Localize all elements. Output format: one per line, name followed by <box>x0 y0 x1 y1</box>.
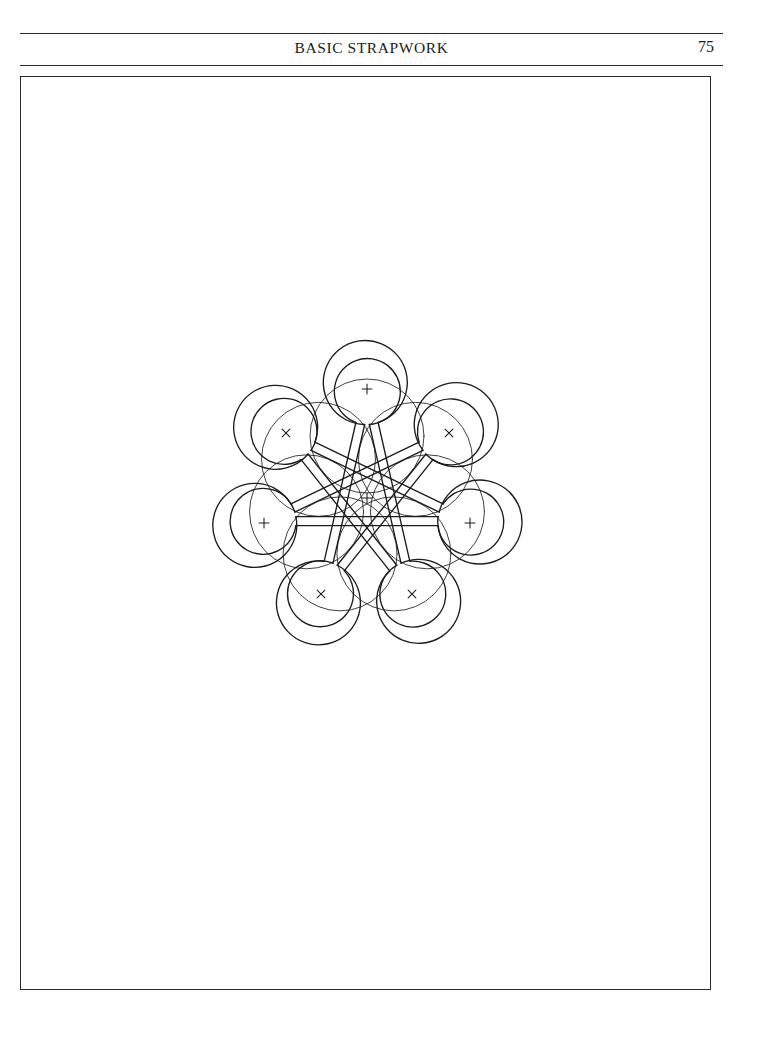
book-page: BASIC STRAPWORK 75 <box>0 0 763 1043</box>
strap-loop-inner <box>438 489 504 555</box>
centre-mark-cross <box>445 429 453 437</box>
strap-line <box>369 424 401 563</box>
strap-line <box>333 424 365 563</box>
strap-line <box>291 442 419 504</box>
centre-mark-cross <box>282 429 290 437</box>
page-number: 75 <box>698 38 714 56</box>
strap-line <box>315 442 443 504</box>
centre-mark-cross <box>408 590 416 598</box>
strap-loop-outer <box>234 385 318 469</box>
strap-line <box>324 422 356 561</box>
plate-frame <box>20 76 711 990</box>
construction-circle <box>370 455 484 569</box>
centre-mark-plus <box>259 518 269 528</box>
diagram-root <box>213 340 522 644</box>
centre-marks <box>259 384 475 598</box>
strap-loop-outer <box>438 480 522 564</box>
construction-circle <box>310 379 424 493</box>
construction-circle <box>250 455 364 569</box>
centre-mark-cross <box>317 590 325 598</box>
figure-container <box>21 77 712 991</box>
strap-line <box>378 422 410 561</box>
centre-mark-plus <box>362 384 372 394</box>
centre-mark-plus <box>465 518 475 528</box>
running-head: BASIC STRAPWORK 75 <box>20 33 723 66</box>
strap-loop-inner <box>230 488 296 554</box>
strapwork-diagram <box>21 77 712 991</box>
page-title: BASIC STRAPWORK <box>20 39 723 57</box>
